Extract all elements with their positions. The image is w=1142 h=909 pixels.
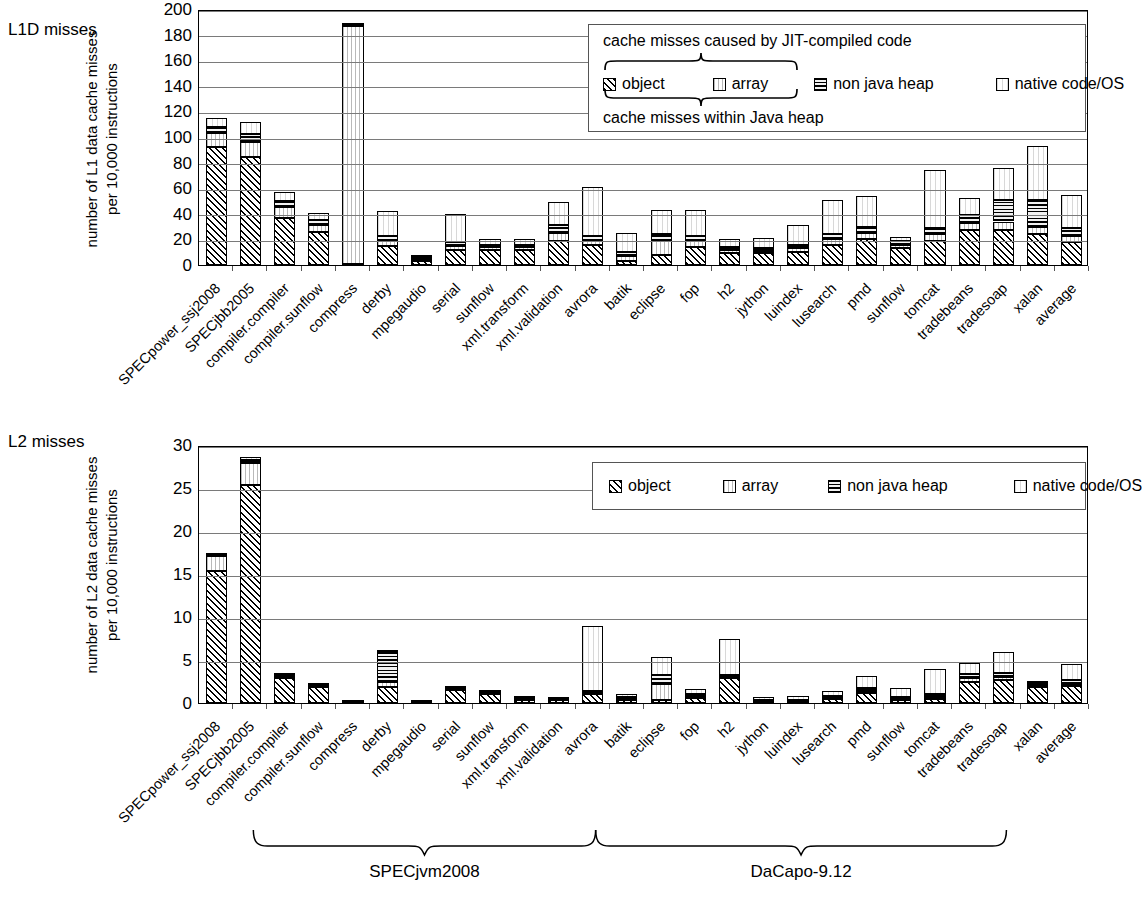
group-label-dacapo: DaCapo-9.12 — [681, 862, 921, 882]
group-label-specjvm2008: SPECjvm2008 — [305, 862, 545, 882]
group-brace — [596, 830, 1007, 855]
group-brace — [253, 830, 595, 855]
